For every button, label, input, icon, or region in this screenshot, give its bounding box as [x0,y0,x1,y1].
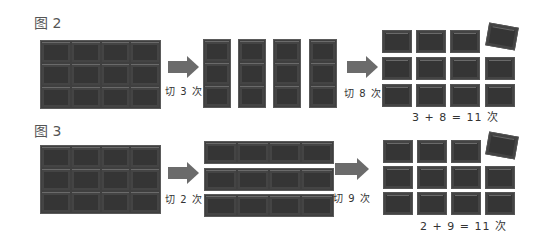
column-piece [309,39,337,108]
chocolate-piece [450,84,480,107]
bar-cell [72,87,100,107]
chocolate-piece [382,84,412,107]
row-piece [204,168,334,191]
chocolate-piece [485,166,515,189]
chocolate-piece [383,140,413,163]
chocolate-piece-tilted [485,132,519,160]
chocolate-piece [416,30,446,53]
chocolate-piece [450,30,480,53]
chocolate-piece [382,30,412,53]
bar-cell [42,64,70,84]
right-arrow-icon [347,56,378,78]
chocolate-piece [485,192,515,215]
chocolate-piece [485,84,515,107]
figure-2-step2-note: 切 8 次 [344,85,382,100]
bar-cell [72,42,100,62]
chocolate-piece [383,192,413,215]
chocolate-piece [417,192,447,215]
figure-3-step2-note: 切 9 次 [333,190,371,205]
figure-2-step1-note: 切 3 次 [165,83,203,98]
bar-cell [42,87,70,107]
figure-3-total: 2 + 9 = 11 次 [420,217,507,233]
column-piece [203,39,231,108]
right-arrow-icon [335,158,369,180]
bar-cell [102,42,130,62]
bar-cell [131,87,159,107]
row-piece [204,194,334,217]
bar-cell [42,42,70,62]
right-arrow-icon [168,162,199,184]
bar-cell [131,64,159,84]
row-piece [204,141,334,164]
bar-cell [102,87,130,107]
chocolate-piece [383,166,413,189]
bar-cell [102,64,130,84]
right-arrow-icon [168,56,199,78]
chocolate-piece [451,166,481,189]
figure-2-whole-bar [40,40,161,109]
chocolate-piece [417,140,447,163]
bar-cell [131,42,159,62]
chocolate-piece [451,192,481,215]
chocolate-piece [485,57,515,80]
column-piece [273,39,301,108]
bar-cell [72,64,100,84]
figure-3-label: 图 3 [34,120,61,140]
chocolate-piece [416,84,446,107]
chocolate-piece [450,57,480,80]
chocolate-piece-tilted [485,23,519,51]
figure-3-step1-note: 切 2 次 [165,191,203,206]
figure-2-label: 图 2 [34,12,61,32]
figure-3-whole-bar [40,145,161,214]
column-piece [238,39,266,108]
chocolate-piece [416,57,446,80]
chocolate-piece [417,166,447,189]
figure-2-total: 3 + 8 = 11 次 [412,108,499,124]
chocolate-piece [451,140,481,163]
chocolate-piece [382,57,412,80]
